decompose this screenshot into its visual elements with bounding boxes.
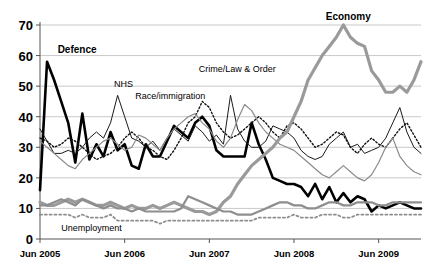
y-axis-tick-labels: 010203040506070 <box>19 18 33 247</box>
y-axis-tick-label: 40 <box>19 110 33 125</box>
y-axis-tick-label: 50 <box>19 79 33 94</box>
series-label-race-immigration: Race/immigration <box>135 91 205 101</box>
data-series <box>40 25 421 224</box>
line-chart: 010203040506070 Jun 2005Jun 2006Jun 2007… <box>0 0 429 270</box>
y-axis-tick-label: 0 <box>26 232 33 247</box>
x-axis-tick-label: Jun 2009 <box>358 248 399 259</box>
y-axis-tick-label: 10 <box>19 201 33 216</box>
series-label-crime-law-order: Crime/Law & Order <box>199 64 276 74</box>
x-axis-tick-label: Jun 2007 <box>189 248 230 259</box>
x-axis-tick-label: Jun 2006 <box>104 248 145 259</box>
series-label-unemployment: Unemployment <box>61 223 122 233</box>
y-axis-tick-label: 70 <box>19 18 33 33</box>
chart-canvas: 010203040506070 Jun 2005Jun 2006Jun 2007… <box>0 0 429 270</box>
y-axis-tick-label: 20 <box>19 171 33 186</box>
x-axis-tick-labels: Jun 2005Jun 2006Jun 2007Jun 2008Jun 2009 <box>20 248 399 259</box>
series-label-economy: Economy <box>326 11 371 22</box>
y-axis-tick-label: 30 <box>19 140 33 155</box>
series-label-defence: Defence <box>58 44 97 55</box>
series-annotations: DefenceNHSRace/immigrationCrime/Law & Or… <box>58 11 372 233</box>
series-line-crime-law-order <box>40 104 421 180</box>
y-axis-tick-label: 60 <box>19 49 33 64</box>
series-line-race-immigration <box>40 101 421 159</box>
x-axis-tick-label: Jun 2008 <box>274 248 315 259</box>
series-line-nhs <box>40 95 421 159</box>
series-line-economy <box>40 25 421 215</box>
series-label-nhs: NHS <box>114 79 133 89</box>
x-axis-tick-label: Jun 2005 <box>20 248 61 259</box>
